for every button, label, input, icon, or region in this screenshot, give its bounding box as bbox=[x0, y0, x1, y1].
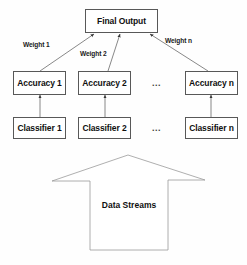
node-accuracy-1-label: Accuracy 1 bbox=[17, 78, 61, 88]
node-final-output[interactable]: Final Output bbox=[85, 9, 158, 33]
classifier-row-ellipsis: ... bbox=[152, 123, 161, 133]
edge-label-weight-2: Weight 2 bbox=[80, 50, 107, 57]
accuracy-row-ellipsis: ... bbox=[152, 78, 161, 88]
node-accuracy-n-label: Accuracy n bbox=[189, 78, 234, 88]
node-accuracy-1[interactable]: Accuracy 1 bbox=[13, 71, 66, 95]
node-classifier-n[interactable]: Classifier n bbox=[185, 117, 238, 139]
data-streams-label: Data Streams bbox=[95, 200, 163, 210]
edge-label-weight-n: Weight n bbox=[165, 37, 192, 44]
diagram-canvas: Final Output Weight 1 Weight 2 Weight n … bbox=[0, 0, 247, 265]
edge-label-weight-1: Weight 1 bbox=[23, 41, 50, 48]
node-accuracy-2-label: Accuracy 2 bbox=[82, 78, 126, 88]
node-classifier-1-label: Classifier 1 bbox=[17, 123, 61, 133]
node-accuracy-2[interactable]: Accuracy 2 bbox=[78, 71, 131, 95]
node-classifier-1[interactable]: Classifier 1 bbox=[13, 117, 66, 139]
node-classifier-2[interactable]: Classifier 2 bbox=[78, 117, 131, 139]
node-final-output-label: Final Output bbox=[97, 16, 146, 26]
edge-accuracy2-to-output bbox=[108, 34, 120, 71]
node-accuracy-n[interactable]: Accuracy n bbox=[185, 71, 238, 95]
node-classifier-n-label: Classifier n bbox=[189, 123, 234, 133]
node-classifier-2-label: Classifier 2 bbox=[82, 123, 126, 133]
